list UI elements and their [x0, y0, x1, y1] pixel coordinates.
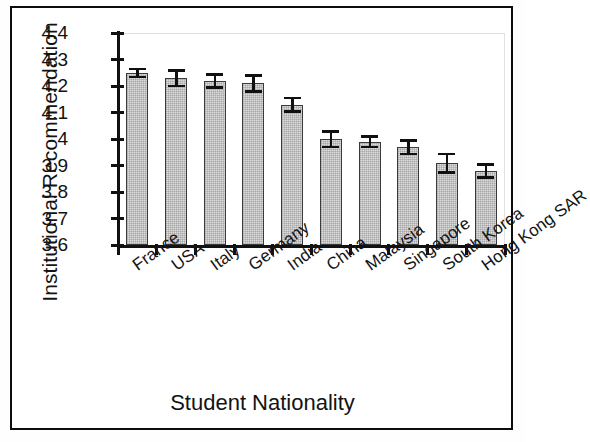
bar-group: [204, 81, 226, 245]
bar-group: [165, 78, 187, 245]
y-tick-mark: [111, 138, 124, 141]
error-bar-cap-upper: [284, 97, 301, 100]
y-tick-mark: [111, 32, 124, 35]
error-bar: [446, 154, 449, 173]
y-tick-mark: [111, 111, 124, 114]
error-bar-cap-upper: [168, 69, 185, 72]
error-bar-cap-lower: [322, 146, 339, 149]
error-bar: [291, 98, 294, 111]
bar-group: [359, 142, 381, 245]
x-tick-mark: [117, 244, 120, 255]
bar-group: [126, 73, 148, 245]
error-bar-cap-lower: [168, 85, 185, 88]
error-bar-cap-lower: [400, 153, 417, 156]
bar: [126, 73, 148, 245]
error-bar-cap-lower: [129, 76, 146, 79]
y-tick-label: 4.2: [8, 76, 68, 95]
bar: [242, 83, 264, 245]
error-bar-cap-upper: [245, 74, 262, 77]
y-tick-mark: [111, 191, 124, 194]
y-tick-label: 3.6: [8, 235, 68, 254]
error-bar-cap-upper: [438, 153, 455, 156]
x-axis-title: Student Nationality: [0, 390, 525, 416]
y-tick-label: 3.7: [8, 209, 68, 228]
bar: [165, 78, 187, 245]
error-bar: [214, 74, 217, 87]
bar: [359, 142, 381, 245]
error-bar-cap-lower: [206, 86, 223, 89]
y-tick-mark: [111, 85, 124, 88]
error-bar-cap-lower: [438, 171, 455, 174]
error-bar: [485, 164, 488, 177]
y-tick-label: 4.4: [8, 23, 68, 42]
bar-group: [320, 139, 342, 245]
error-bar: [407, 140, 410, 153]
error-bar-cap-lower: [284, 110, 301, 113]
y-tick-label: 4.1: [8, 103, 68, 122]
error-bar: [330, 131, 333, 147]
error-bar: [252, 75, 255, 91]
y-tick-label: 4: [8, 129, 68, 148]
bar: [204, 81, 226, 245]
error-bar-cap-lower: [361, 146, 378, 149]
bar: [320, 139, 342, 245]
error-bar-cap-upper: [206, 73, 223, 76]
y-tick-label: 4.3: [8, 50, 68, 69]
bar-group: [242, 83, 264, 245]
error-bar-cap-upper: [129, 68, 146, 71]
y-tick-mark: [111, 58, 124, 61]
y-tick-label: 3.9: [8, 156, 68, 175]
error-bar-cap-lower: [245, 90, 262, 93]
y-tick-label: 3.8: [8, 182, 68, 201]
y-tick-mark: [111, 164, 124, 167]
y-tick-mark: [111, 217, 124, 220]
error-bar: [175, 70, 178, 86]
error-bar-cap-upper: [322, 130, 339, 133]
error-bar-cap-lower: [477, 176, 494, 179]
error-bar-cap-upper: [477, 163, 494, 166]
error-bar-cap-upper: [361, 135, 378, 138]
error-bar-cap-upper: [400, 139, 417, 142]
